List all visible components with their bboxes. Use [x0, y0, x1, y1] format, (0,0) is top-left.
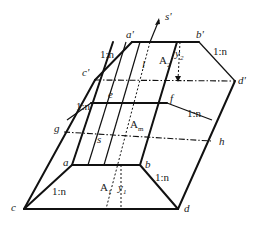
label-b-prime: b'	[196, 28, 205, 40]
arrow-s-prime-icon	[155, 18, 160, 25]
label-s: s	[97, 133, 101, 145]
label-d: d	[184, 202, 190, 214]
label-h: h	[219, 135, 225, 147]
label-c-prime: c'	[82, 66, 90, 78]
label-slope-bottom-right: 1:n	[155, 171, 170, 183]
label-f: f	[170, 92, 175, 104]
label-a: a	[63, 156, 69, 168]
label-a-prime: a'	[126, 28, 135, 40]
label-s-prime: s'	[165, 10, 172, 22]
label-slope-bottom-left: 1:n	[52, 185, 67, 197]
line-g-h	[64, 132, 211, 141]
label-A2: A2	[159, 54, 171, 69]
label-b: b	[145, 158, 151, 170]
label-y2: y2	[174, 47, 184, 62]
label-slope-top-left: 1:n	[100, 48, 115, 60]
label-c: c	[11, 201, 16, 213]
label-slope-mid-right: 1:n	[187, 107, 202, 119]
label-y1: y1	[117, 181, 126, 196]
label-Am: Am	[130, 118, 144, 133]
trapezoid-prism-diagram: a' b' c' d' s' e f g h s a b c d 1:n 1:n…	[0, 0, 258, 239]
label-g: g	[54, 122, 60, 134]
label-slope-top-right: 1:n	[213, 45, 228, 57]
label-d-prime: d'	[238, 74, 247, 86]
label-l: l	[142, 58, 145, 70]
label-e: e	[108, 88, 113, 100]
edge-right-outer	[178, 81, 235, 209]
label-A1: A1	[100, 181, 112, 196]
label-slope-mid-left: 1:n	[76, 100, 91, 112]
